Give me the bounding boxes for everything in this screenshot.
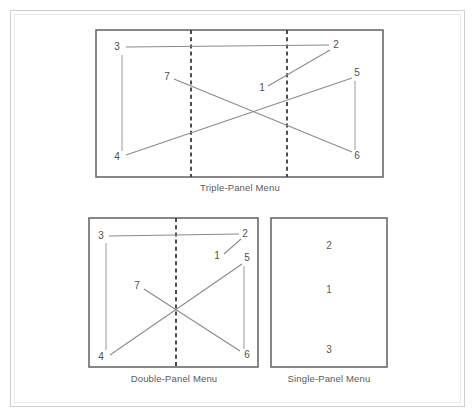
- single-node-1: 1: [326, 284, 332, 295]
- triple-panel-outline: [96, 30, 383, 177]
- triple-node-6: 6: [354, 150, 360, 161]
- double-node-1: 1: [214, 250, 220, 261]
- caption-double-panel: Double-Panel Menu: [89, 373, 259, 384]
- triple-node-1: 1: [259, 82, 265, 93]
- triple-node-7: 7: [164, 71, 170, 82]
- single-panel-diagram: 2 1 3: [271, 218, 387, 367]
- figure-root: 3 2 7 1 5 4 6 3 2 1 5: [0, 0, 475, 417]
- double-node-4: 4: [98, 351, 104, 362]
- single-node-2: 2: [326, 240, 332, 251]
- double-node-2: 2: [242, 228, 248, 239]
- double-node-3: 3: [98, 230, 104, 241]
- single-node-3: 3: [326, 344, 332, 355]
- triple-node-4: 4: [114, 151, 120, 162]
- caption-triple-panel: Triple-Panel Menu: [96, 182, 384, 193]
- double-node-7: 7: [134, 280, 140, 291]
- triple-node-3: 3: [114, 41, 120, 52]
- triple-node-2: 2: [333, 39, 339, 50]
- triple-panel-diagram: 3 2 7 1 5 4 6: [96, 30, 383, 177]
- double-node-5: 5: [244, 252, 250, 263]
- double-node-6: 6: [244, 349, 250, 360]
- triple-node-5: 5: [354, 67, 360, 78]
- double-panel-diagram: 3 2 1 5 7 4 6: [89, 218, 258, 367]
- diagram-canvas: 3 2 7 1 5 4 6 3 2 1 5: [0, 0, 475, 417]
- double-panel-outline: [89, 218, 258, 367]
- caption-single-panel: Single-Panel Menu: [271, 373, 387, 384]
